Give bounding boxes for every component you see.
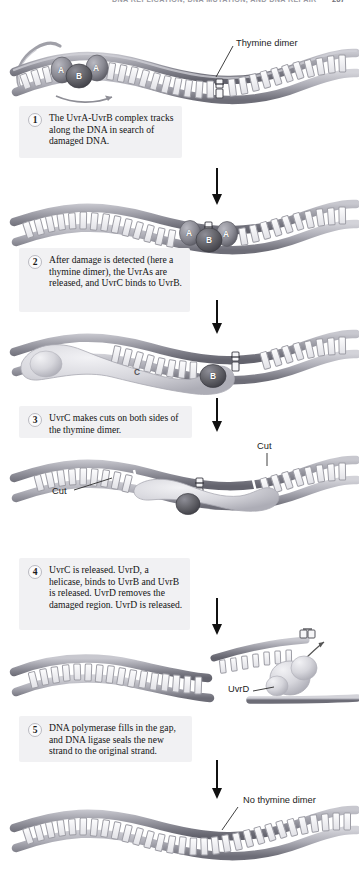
dna-panel-3: [14, 334, 357, 395]
arrow-5-to-6: [212, 760, 222, 799]
step-box-5: 5 DNA polymerase fills in the gap, and D…: [19, 716, 192, 762]
step-box-3: 3 UvrC makes cuts on both sides of the t…: [19, 406, 192, 438]
dna-panel-5: [14, 629, 357, 700]
uvrd-helicase: [266, 656, 317, 696]
step-box-2: 2 After damage is detected (here a thymi…: [19, 248, 190, 312]
step-box-4: 4 UvrC is released. UvrD, a helicase, bi…: [19, 558, 190, 630]
figure-page: DNA REPLICATION, DNA MUTATION, AND DNA R…: [0, 0, 359, 871]
step-text-5: DNA polymerase fills in the gap, and DNA…: [49, 722, 185, 757]
uvrb-protein-4: [176, 494, 200, 515]
step-number-2: 2: [28, 255, 42, 269]
protein-label-uvrb-3: B: [210, 371, 216, 381]
thymine-dimer-site-1: [215, 79, 224, 98]
leader-thymine-dimer: [216, 46, 233, 77]
arrow-3-to-4: [212, 398, 222, 432]
step-number-4: 4: [28, 565, 42, 579]
step-number-1: 1: [28, 113, 42, 127]
arrow-2-to-3: [212, 300, 222, 334]
thymine-dimer-excised: [300, 629, 315, 638]
dna-panel-1: [14, 43, 357, 102]
label-uvrd: UvrD: [228, 684, 249, 694]
protein-label-uvrb-1: B: [76, 71, 82, 81]
protein-label-uvrc-3: C: [134, 367, 140, 377]
label-cut-left: Cut: [52, 486, 66, 496]
arrow-1-to-2: [212, 168, 222, 205]
label-thymine-dimer: Thymine dimer: [236, 38, 297, 48]
step-text-4: UvrC is released. UvrD, a helicase, bind…: [49, 564, 183, 610]
arrow-4-to-5: [212, 598, 222, 635]
protein-label-uvra-right-2: A: [223, 229, 229, 239]
protein-label-uvrb-2: B: [206, 235, 212, 245]
protein-label-uvra-right-1: A: [93, 63, 99, 73]
step-box-1: 1 The UvrA-UvrB complex tracks along the…: [19, 106, 182, 158]
step-text-2: After damage is detected (here a thymine…: [49, 254, 183, 289]
step-number-3: 3: [28, 413, 42, 427]
protein-label-uvra-left-2: A: [186, 228, 192, 238]
dna-panel-6: [14, 810, 357, 856]
leader-no-thymine-dimer: [222, 807, 238, 830]
step-number-5: 5: [28, 723, 42, 737]
label-no-thymine-dimer: No thymine dimer: [243, 795, 316, 805]
leader-lines: [74, 46, 274, 830]
label-cut-right: Cut: [257, 441, 271, 451]
protein-label-uvra-left-1: A: [58, 65, 64, 75]
step-text-1: The UvrA-UvrB complex tracks along the D…: [49, 112, 175, 147]
step-text-3: UvrC makes cuts on both sides of the thy…: [49, 412, 185, 435]
